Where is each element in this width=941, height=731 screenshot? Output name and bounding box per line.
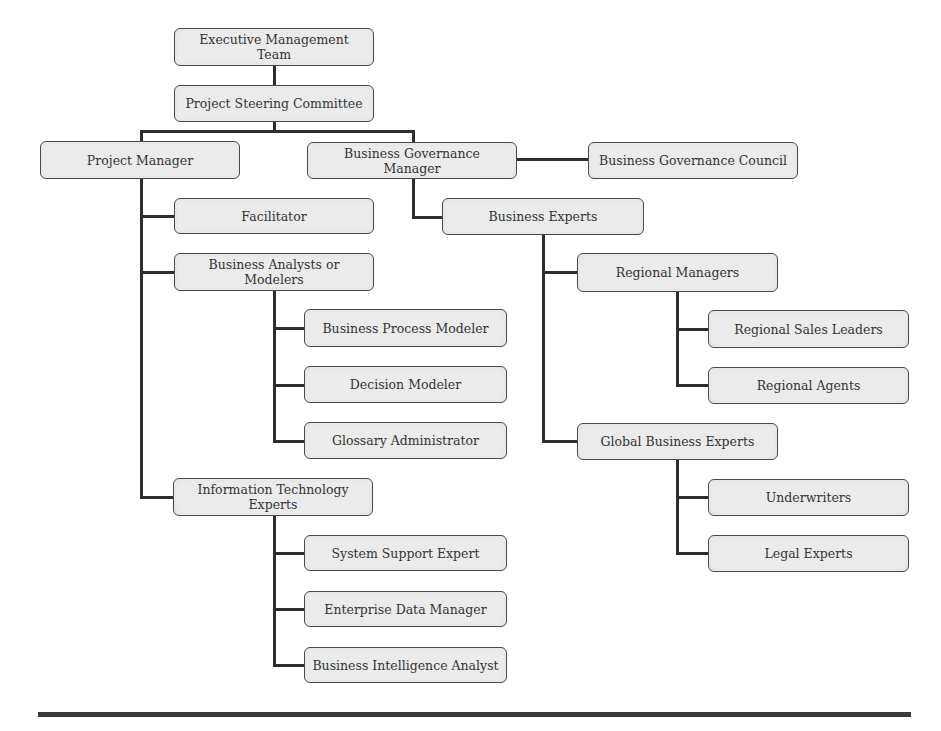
connector-psc-branch <box>140 130 415 133</box>
connector-pm-ite <box>140 496 174 499</box>
node-business-governance-manager: Business Governance Manager <box>307 142 517 179</box>
connector-ba-ga <box>273 440 304 443</box>
node-label: Regional Managers <box>616 265 739 280</box>
connector-gbe-uw <box>676 496 708 499</box>
node-executive-management-team: Executive Management Team <box>174 28 374 66</box>
connector-emt-psc <box>273 66 276 85</box>
node-business-analysts-or-modelers: Business Analysts or Modelers <box>174 253 374 291</box>
connector-gbe-le <box>676 552 708 555</box>
connector-ba-dm <box>273 384 304 387</box>
node-label: Facilitator <box>241 209 306 224</box>
node-label: Legal Experts <box>764 546 852 561</box>
node-label: Project Steering Committee <box>185 96 362 111</box>
connector-bgm-be-v <box>412 179 415 218</box>
connector-be-rm <box>542 271 577 274</box>
connector-rm-rsl <box>676 328 708 331</box>
node-label: System Support Expert <box>332 546 480 561</box>
node-label: Business Intelligence Analyst <box>312 658 498 673</box>
connector-pm-facilitator <box>140 215 174 218</box>
node-business-intelligence-analyst: Business Intelligence Analyst <box>304 647 507 683</box>
node-label: Global Business Experts <box>601 434 755 449</box>
node-regional-sales-leaders: Regional Sales Leaders <box>708 310 909 348</box>
node-business-experts: Business Experts <box>442 198 644 235</box>
node-label: Regional Agents <box>757 378 861 393</box>
node-project-steering-committee: Project Steering Committee <box>174 85 374 122</box>
connector-pm-trunk <box>140 179 143 498</box>
connector-rm-ra <box>676 384 708 387</box>
node-label: Regional Sales Leaders <box>734 322 883 337</box>
connector-pm-ba <box>140 271 174 274</box>
node-regional-agents: Regional Agents <box>708 367 909 404</box>
org-chart: Executive Management Team Project Steeri… <box>0 0 941 731</box>
node-decision-modeler: Decision Modeler <box>304 366 507 403</box>
connector-bgm-bgc <box>517 158 588 161</box>
connector-gbe-trunk <box>676 460 679 554</box>
connector-ba-bpm <box>273 327 304 330</box>
connector-ite-bia <box>273 664 304 667</box>
connector-rm-trunk <box>676 292 679 386</box>
connector-be-gbe <box>542 440 577 443</box>
node-label: Underwriters <box>766 490 851 505</box>
node-glossary-administrator: Glossary Administrator <box>304 422 507 459</box>
connector-bgm-be-h <box>412 216 442 219</box>
node-label: Decision Modeler <box>350 377 461 392</box>
node-facilitator: Facilitator <box>174 198 374 234</box>
node-label: Executive Management Team <box>181 32 367 62</box>
node-enterprise-data-manager: Enterprise Data Manager <box>304 591 507 627</box>
connector-be-trunk <box>542 235 545 442</box>
node-label: Glossary Administrator <box>332 433 479 448</box>
node-legal-experts: Legal Experts <box>708 535 909 572</box>
node-label: Project Manager <box>87 153 193 168</box>
connector-ite-sse <box>273 552 304 555</box>
connector-branch-pm <box>140 130 143 141</box>
node-label: Business Governance Manager <box>314 146 510 176</box>
node-information-technology-experts: Information Technology Experts <box>173 478 373 516</box>
connector-ite-trunk <box>273 516 276 666</box>
node-label: Business Analysts or Modelers <box>209 257 340 287</box>
node-label: Business Governance Council <box>599 153 787 168</box>
node-business-process-modeler: Business Process Modeler <box>304 309 507 347</box>
connector-ba-trunk <box>273 291 276 442</box>
node-label: Enterprise Data Manager <box>324 602 486 617</box>
connector-branch-bgm <box>412 130 415 142</box>
bottom-rule-divider <box>38 712 911 717</box>
node-regional-managers: Regional Managers <box>577 253 778 292</box>
node-label: Business Experts <box>489 209 598 224</box>
node-system-support-expert: System Support Expert <box>304 535 507 571</box>
node-label: Business Process Modeler <box>322 321 488 336</box>
node-business-governance-council: Business Governance Council <box>588 142 798 179</box>
node-project-manager: Project Manager <box>40 141 240 179</box>
connector-ite-edm <box>273 608 304 611</box>
node-label: Information Technology Experts <box>198 482 349 512</box>
node-global-business-experts: Global Business Experts <box>577 423 778 460</box>
node-underwriters: Underwriters <box>708 479 909 516</box>
